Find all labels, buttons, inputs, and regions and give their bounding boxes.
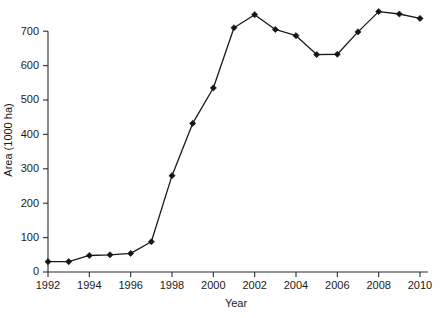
- data-point-marker: [107, 252, 113, 258]
- x-tick-label: 2006: [325, 279, 349, 291]
- y-axis-title: Area (1000 ha): [2, 103, 14, 176]
- x-axis-ticks: 1992199419961998200020022004200620082010: [36, 272, 432, 291]
- x-tick-label: 1994: [77, 279, 101, 291]
- series-markers-area: [45, 8, 423, 264]
- y-tick-label: 500: [21, 93, 39, 105]
- series-line-area: [48, 12, 420, 262]
- x-axis-title: Year: [225, 297, 248, 309]
- line-chart: 0100200300400500600700 19921994199619982…: [0, 0, 441, 318]
- data-point-marker: [417, 15, 423, 21]
- data-point-marker: [66, 259, 72, 265]
- x-tick-label: 2008: [366, 279, 390, 291]
- y-tick-label: 100: [21, 231, 39, 243]
- x-tick-label: 2004: [284, 279, 308, 291]
- y-tick-label: 600: [21, 59, 39, 71]
- data-point-marker: [190, 120, 196, 126]
- x-tick-label: 1992: [36, 279, 60, 291]
- data-point-marker: [396, 11, 402, 17]
- y-tick-label: 0: [33, 265, 39, 277]
- data-point-marker: [231, 25, 237, 31]
- y-axis-ticks: 0100200300400500600700: [21, 25, 48, 278]
- x-tick-label: 1998: [160, 279, 184, 291]
- y-axis-group: 0100200300400500600700: [21, 25, 48, 278]
- x-tick-label: 2000: [201, 279, 225, 291]
- data-point-marker: [210, 85, 216, 91]
- y-tick-label: 300: [21, 162, 39, 174]
- data-point-marker: [86, 252, 92, 258]
- plot-series-group: [45, 8, 423, 264]
- x-tick-label: 1996: [118, 279, 142, 291]
- y-tick-label: 400: [21, 128, 39, 140]
- data-point-marker: [45, 259, 51, 265]
- data-point-marker: [169, 173, 175, 179]
- x-tick-label: 2010: [408, 279, 432, 291]
- y-tick-label: 700: [21, 25, 39, 37]
- data-point-marker: [128, 250, 134, 256]
- y-tick-label: 200: [21, 197, 39, 209]
- x-tick-label: 2002: [242, 279, 266, 291]
- x-axis-group: 1992199419961998200020022004200620082010: [36, 272, 432, 291]
- chart-canvas: 0100200300400500600700 19921994199619982…: [0, 0, 441, 318]
- data-point-marker: [148, 239, 154, 245]
